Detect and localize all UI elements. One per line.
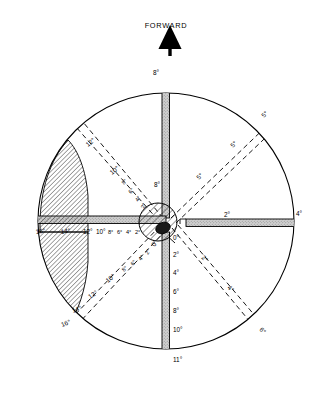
label-ul-4: 4° [134, 195, 142, 203]
label-ur-5-inner: 5° [195, 171, 205, 181]
diagonal-upper-left-cap [61, 101, 71, 110]
diagonal-upper-right [171, 116, 283, 223]
label-horiz-left-16: 16° [35, 227, 46, 235]
label-horiz-left-2: 2° [135, 229, 140, 235]
label-ul-8: 8° [120, 178, 128, 186]
right-post-notch [180, 219, 186, 224]
obstruction-plot-svg: FORWARD [0, 0, 333, 399]
label-vert-down-0: 0° [173, 234, 180, 241]
label-horiz-right-4: 4° [296, 210, 303, 217]
horizontal-post-right [186, 219, 318, 227]
label-horiz-left-8: 8° [108, 229, 113, 235]
label-vert-down-6: 6° [173, 288, 180, 295]
label-ur-5-outer: 5° [260, 109, 270, 119]
label-ll-2: 2° [144, 248, 152, 256]
label-horiz-left-12: 12° [83, 228, 93, 235]
diagram-root: FORWARD [0, 0, 333, 399]
vertical-post-down [162, 232, 170, 378]
label-vert-down-8: 8° [173, 307, 180, 314]
label-lr-2: 2° [200, 254, 210, 264]
diagonal-lower-right [172, 225, 273, 341]
label-vert-down-4: 4° [173, 269, 180, 276]
label-ll-4: 4° [137, 254, 145, 262]
label-vert-up-inner-8: 8° [154, 181, 161, 188]
label-horiz-left-14: 14° [60, 227, 71, 235]
label-horiz-left-4: 4° [126, 229, 131, 235]
label-horiz-left-6: 6° [117, 229, 122, 235]
label-ll-12: 12° [87, 288, 99, 299]
label-ur-5-mid: 5° [229, 139, 239, 149]
diagonal-lower-right-cap [266, 336, 274, 341]
label-horiz-left-10: 10° [96, 228, 106, 235]
label-lr-6: 6° [258, 326, 268, 336]
label-ll-10: 10° [104, 272, 116, 284]
label-vert-up-8: 8° [153, 69, 160, 76]
label-vert-down-2: 2° [173, 251, 180, 258]
label-ll-16: 16° [60, 318, 72, 328]
forward-label: FORWARD [145, 21, 188, 30]
label-ll-8: 8° [121, 265, 129, 273]
horizontal-post-left-blind-overlay [16, 216, 88, 223]
vertical-post-up [162, 66, 170, 218]
label-ll-6: 6° [129, 259, 137, 267]
label-vert-down-10: 10° [173, 326, 183, 333]
blind-sector-lower [38, 232, 88, 330]
label-ul-10: 10° [108, 164, 120, 176]
label-ul-6: 6° [127, 187, 135, 195]
label-vert-down-11: 11° [173, 356, 183, 363]
diagonal-upper-right-cap [277, 116, 284, 122]
label-horiz-right-2: 2° [224, 211, 231, 218]
